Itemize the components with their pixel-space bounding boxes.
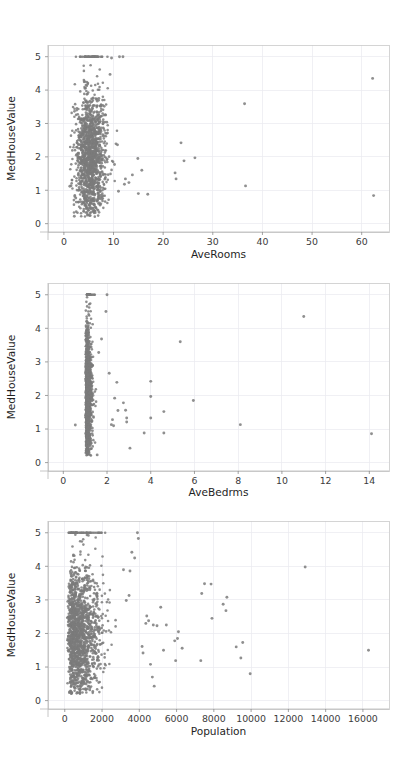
y-axis-title: MedHouseValue	[5, 96, 17, 181]
x-tick-label: 0	[60, 475, 66, 486]
x-tick-label: 50	[306, 236, 318, 247]
y-tick-label: 3	[35, 356, 41, 367]
y-tick-label: 0	[35, 218, 41, 229]
plot-frame	[48, 283, 389, 471]
y-tick-label: 4	[35, 84, 41, 95]
y-tick-label: 0	[35, 695, 41, 706]
y-tick-label: 3	[35, 594, 41, 605]
y-tick-label: 2	[35, 390, 41, 401]
y-tick-label: 4	[35, 561, 41, 572]
y-tick-label: 2	[35, 151, 41, 162]
x-tick-label: 20	[157, 236, 169, 247]
y-tick-label: 5	[35, 289, 41, 300]
x-tick-label: 0	[62, 713, 68, 724]
x-tick-label: 30	[207, 236, 219, 247]
y-axis-title: MedHouseValue	[5, 573, 17, 658]
x-tick-label: 12	[320, 475, 332, 486]
x-tick-label: 0	[61, 236, 67, 247]
gridlines	[48, 521, 389, 709]
y-tick-label: 2	[35, 628, 41, 639]
plot-frame	[48, 521, 389, 709]
y-tick-label: 3	[35, 118, 41, 129]
data-points	[66, 531, 370, 695]
scatter-panel-avebedrms: 02468101214012345AveBedrmsMedHouseValue	[0, 262, 410, 502]
gridlines	[48, 283, 389, 471]
x-tick-label: 40	[256, 236, 268, 247]
x-tick-label: 10000	[236, 713, 266, 724]
axes	[40, 521, 389, 717]
x-tick-label: 14	[363, 475, 375, 486]
y-tick-label: 1	[35, 423, 41, 434]
scatter-plot-averooms: 0102030405060012345AveRoomsMedHouseValue	[0, 0, 410, 262]
x-tick-label: 8	[235, 475, 241, 486]
x-tick-label: 4	[148, 475, 154, 486]
y-tick-label: 5	[35, 51, 41, 62]
x-tick-label: 10	[108, 236, 120, 247]
x-tick-label: 6000	[165, 713, 189, 724]
y-tick-label: 0	[35, 457, 41, 468]
scatter-plot-population: 0200040006000800010000120001400016000012…	[0, 502, 410, 767]
data-points	[68, 55, 375, 218]
x-axis-title: AveBedrms	[189, 486, 249, 498]
x-axis-title: Population	[191, 725, 247, 737]
x-tick-label: 60	[356, 236, 368, 247]
scatter-plot-avebedrms: 02468101214012345AveBedrmsMedHouseValue	[0, 262, 410, 502]
scatter-panel-averooms: 0102030405060012345AveRoomsMedHouseValue	[0, 0, 410, 262]
x-tick-label: 2000	[90, 713, 114, 724]
figure-canvas: 0102030405060012345AveRoomsMedHouseValue…	[0, 0, 410, 767]
x-tick-label: 4000	[127, 713, 151, 724]
y-tick-label: 5	[35, 527, 41, 538]
x-tick-label: 10	[276, 475, 288, 486]
x-tick-label: 6	[191, 475, 197, 486]
x-tick-label: 2	[104, 475, 110, 486]
scatter-panel-population: 0200040006000800010000120001400016000012…	[0, 502, 410, 767]
x-tick-label: 8000	[202, 713, 226, 724]
x-tick-label: 14000	[311, 713, 341, 724]
y-tick-label: 1	[35, 661, 41, 672]
x-tick-label: 12000	[273, 713, 303, 724]
y-tick-label: 1	[35, 185, 41, 196]
x-tick-label: 16000	[348, 713, 378, 724]
x-axis-title: AveRooms	[191, 248, 246, 260]
y-axis-title: MedHouseValue	[5, 335, 17, 420]
data-points	[74, 293, 373, 456]
y-tick-label: 4	[35, 323, 41, 334]
